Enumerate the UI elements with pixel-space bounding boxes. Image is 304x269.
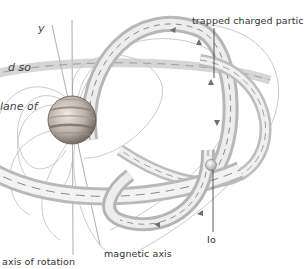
magnetosphere-diagram <box>0 0 304 269</box>
label-trapped-charged-particles: trapped charged particles <box>192 15 304 26</box>
caption-text: y d so lane of <box>0 0 45 126</box>
caption-line-1: y <box>0 22 45 35</box>
jupiter-planet <box>48 96 96 144</box>
label-axis-of-rotation: axis of rotation <box>2 256 75 267</box>
label-magnetic-axis: magnetic axis <box>104 248 172 259</box>
diagram-illustration <box>0 0 304 269</box>
io-moon <box>206 160 217 171</box>
label-io: Io <box>207 234 216 245</box>
caption-line-3: lane of <box>0 100 45 113</box>
caption-line-2: d so <box>0 61 45 74</box>
